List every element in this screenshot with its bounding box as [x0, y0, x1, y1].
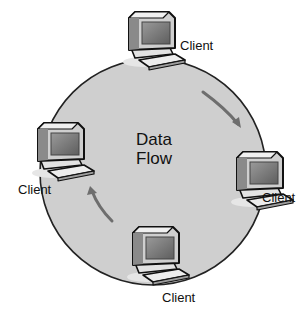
client-left-computer-icon: [32, 123, 94, 181]
client-left-label: Client: [18, 182, 51, 197]
center-label-line2: Flow: [128, 149, 180, 168]
center-label-line1: Data: [128, 130, 180, 149]
client-top-computer-icon: [123, 12, 185, 70]
diagram-center-label: Data Flow: [128, 130, 180, 168]
client-top-label: Client: [180, 38, 213, 53]
client-bottom-label: Client: [162, 290, 195, 305]
client-right-label: Client: [262, 190, 295, 205]
client-bottom-computer-icon: [127, 227, 189, 285]
data-flow-diagram: Data Flow Client Client Client Client: [0, 0, 307, 314]
